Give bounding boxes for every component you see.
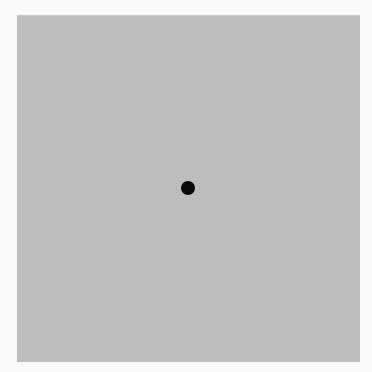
stimulus-canvas xyxy=(0,0,372,372)
fixation-dot xyxy=(181,181,195,195)
